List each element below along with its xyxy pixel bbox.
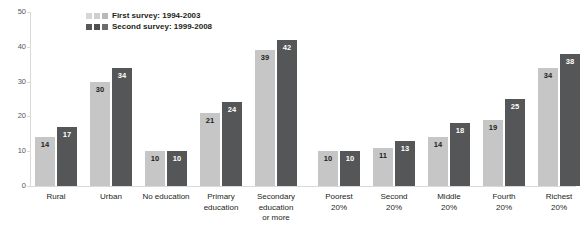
- bar-pair: 1010: [318, 12, 360, 186]
- bar-poorest-20-first: 10: [318, 151, 338, 186]
- legend-swatch-first-survey: [86, 13, 108, 19]
- legend-swatch-square: [94, 13, 100, 19]
- bar-pair: 1417: [35, 12, 77, 186]
- bar-rural-second: 17: [57, 127, 77, 186]
- bar-middle-20-first: 14: [428, 137, 448, 186]
- legend-swatch-second-survey: [86, 24, 108, 30]
- bar-value-label: 42: [277, 44, 297, 52]
- bar-value-label: 10: [318, 155, 338, 163]
- bar-poorest-20-second: 10: [340, 151, 360, 186]
- y-axis-tick-label: 30: [0, 78, 26, 86]
- bar-group-poorest-20: 1010Poorest 20%: [318, 12, 360, 186]
- bar-pair: 3942: [255, 12, 297, 186]
- bar-urban-second: 34: [112, 68, 132, 186]
- bar-group-fourth-20: 1925Fourth 20%: [483, 12, 525, 186]
- bar-pair: 2124: [200, 12, 242, 186]
- bar-primary-education-first: 21: [200, 113, 220, 186]
- bar-pair: 1925: [483, 12, 525, 186]
- y-axis-tick-label: 0: [0, 182, 26, 190]
- bar-group-urban: 3034Urban: [90, 12, 132, 186]
- bar-value-label: 25: [505, 103, 525, 111]
- bar-no-education-first: 10: [145, 151, 165, 186]
- bar-pair: 1010: [145, 12, 187, 186]
- x-axis-label-richest-20: Richest 20%: [522, 192, 584, 213]
- bar-group-richest-20: 3438Richest 20%: [538, 12, 580, 186]
- bar-rural-first: 14: [35, 137, 55, 186]
- bar-pair: 3438: [538, 12, 580, 186]
- bar-group-primary-education: 2124Primary education: [200, 12, 242, 186]
- bar-value-label: 17: [57, 131, 77, 139]
- bar-value-label: 10: [145, 155, 165, 163]
- bar-second-20-second: 13: [395, 141, 415, 186]
- bar-middle-20-second: 18: [450, 123, 470, 186]
- bar-fourth-20-first: 19: [483, 120, 503, 186]
- bar-value-label: 14: [35, 141, 55, 149]
- bar-value-label: 19: [483, 124, 503, 132]
- bar-pair: 1418: [428, 12, 470, 186]
- bar-urban-first: 30: [90, 82, 110, 186]
- bar-value-label: 38: [560, 58, 580, 66]
- bar-value-label: 10: [167, 155, 187, 163]
- bar-value-label: 34: [112, 72, 132, 80]
- bar-group-second-20: 1113Second 20%: [373, 12, 415, 186]
- y-axis-tick-label: 10: [0, 147, 26, 155]
- bar-value-label: 24: [222, 106, 242, 114]
- chart-legend: First survey: 1994-2003 Second survey: 1…: [86, 11, 212, 33]
- legend-label-second-survey: Second survey: 1999-2008: [112, 23, 212, 31]
- legend-swatch-square: [102, 24, 108, 30]
- legend-swatch-square: [94, 24, 100, 30]
- bar-primary-education-second: 24: [222, 102, 242, 186]
- bar-value-label: 13: [395, 145, 415, 153]
- bar-secondary-education-or-more-second: 42: [277, 40, 297, 186]
- chart-title-cropped: [0, 0, 576, 7]
- y-axis-tick-label: 40: [0, 43, 26, 51]
- bar-pair: 3034: [90, 12, 132, 186]
- bar-secondary-education-or-more-first: 39: [255, 50, 275, 186]
- bar-value-label: 21: [200, 117, 220, 125]
- y-axis-tick-label: 50: [0, 8, 26, 16]
- bar-group-middle-20: 1418Middle 20%: [428, 12, 470, 186]
- bar-group-no-education: 1010No education: [145, 12, 187, 186]
- y-axis-tick-label: 20: [0, 112, 26, 120]
- bar-no-education-second: 10: [167, 151, 187, 186]
- legend-swatch-square: [86, 13, 92, 19]
- x-axis-baseline: [30, 186, 576, 187]
- legend-entry-second-survey: Second survey: 1999-2008: [86, 22, 212, 31]
- bar-value-label: 18: [450, 127, 470, 135]
- legend-swatch-square: [86, 24, 92, 30]
- bar-pair: 1113: [373, 12, 415, 186]
- bar-richest-20-first: 34: [538, 68, 558, 186]
- bar-value-label: 30: [90, 86, 110, 94]
- bar-group-rural: 1417Rural: [35, 12, 77, 186]
- bar-value-label: 34: [538, 72, 558, 80]
- bar-richest-20-second: 38: [560, 54, 580, 186]
- bar-fourth-20-second: 25: [505, 99, 525, 186]
- bar-value-label: 14: [428, 141, 448, 149]
- plot-area: 1417Rural3034Urban1010No education2124Pr…: [31, 12, 576, 186]
- legend-label-first-survey: First survey: 1994-2003: [112, 12, 201, 20]
- bar-second-20-first: 11: [373, 148, 393, 186]
- legend-swatch-square: [102, 13, 108, 19]
- bar-value-label: 39: [255, 54, 275, 62]
- legend-entry-first-survey: First survey: 1994-2003: [86, 11, 212, 20]
- bar-value-label: 10: [340, 155, 360, 163]
- bar-value-label: 11: [373, 152, 393, 160]
- bar-group-secondary-education-or-more: 3942Secondary education or more: [255, 12, 297, 186]
